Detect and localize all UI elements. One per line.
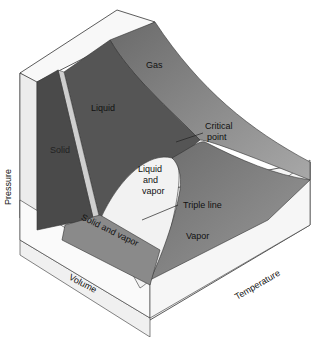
- liquid-label: Liquid: [91, 103, 115, 113]
- critical-label-1: Critical: [205, 121, 233, 131]
- pvt-diagram: Gas Liquid Solid Liquid and vapor Solid …: [0, 0, 328, 337]
- pressure-axis-label: Pressure: [3, 169, 13, 205]
- solid-label: Solid: [50, 145, 70, 155]
- gas-label: Gas: [146, 60, 163, 70]
- vapor-label: Vapor: [186, 231, 209, 241]
- liquid-vapor-label-3: vapor: [142, 186, 165, 196]
- liquid-vapor-label-2: and: [143, 175, 158, 185]
- pvt-surface-drawing: [0, 0, 328, 337]
- liquid-vapor-label-1: Liquid: [138, 164, 162, 174]
- critical-label-2: point: [207, 132, 227, 142]
- triple-line-label: Triple line: [183, 200, 222, 210]
